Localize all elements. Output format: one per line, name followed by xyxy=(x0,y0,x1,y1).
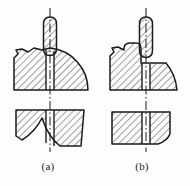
workpiece-lower-view-b xyxy=(105,108,185,150)
drawing-canvas xyxy=(0,0,190,186)
panel-a xyxy=(0,8,100,155)
engineering-drawing-figure: (a) (b) xyxy=(0,0,190,186)
figure-caption-a: (a) xyxy=(28,160,68,172)
panel-b xyxy=(105,8,185,152)
figure-caption-b: (b) xyxy=(122,160,162,172)
